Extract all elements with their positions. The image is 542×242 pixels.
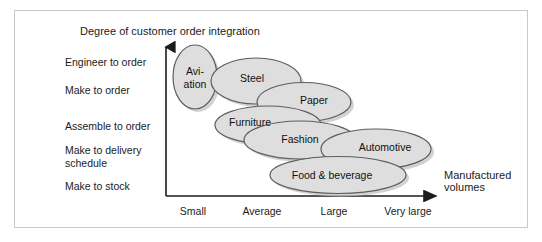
y-level-make-to-stock: Make to stock xyxy=(65,180,130,193)
x-tick-large: Large xyxy=(321,205,348,218)
bubble-label-food-beverage: Food & beverage xyxy=(292,169,373,182)
y-level-make-to-delivery-schedule: Make to delivery schedule xyxy=(65,144,141,170)
bubble-label-aviation-line1: Avi- xyxy=(186,65,204,78)
bubble-label-automotive: Automotive xyxy=(359,141,412,154)
bubble-label-paper: Paper xyxy=(300,94,328,107)
y-level-make-to-order: Make to order xyxy=(65,84,130,97)
y-level-engineer-to-order: Engineer to order xyxy=(65,56,146,69)
bubble-label-steel: Steel xyxy=(240,72,264,85)
x-tick-very-large: Very large xyxy=(384,205,431,218)
bubble-label-fashion: Fashion xyxy=(281,133,318,146)
y-level-assemble-to-order: Assemble to order xyxy=(65,120,150,133)
bubble-label-furniture: Furniture xyxy=(229,116,271,129)
y-axis-title: Degree of customer order integration xyxy=(80,25,260,38)
x-tick-average: Average xyxy=(243,205,282,218)
bubble-label-aviation-line2: ation xyxy=(184,78,207,91)
figure-root: Degree of customer order integration Eng… xyxy=(0,0,542,242)
x-tick-small: Small xyxy=(180,205,206,218)
x-axis-title-line2: volumes xyxy=(444,181,485,194)
